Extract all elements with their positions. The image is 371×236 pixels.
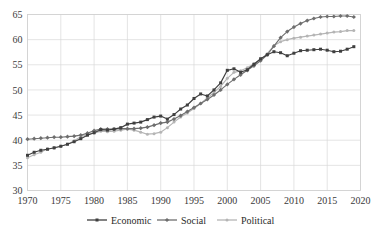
data-point-economic (193, 97, 196, 100)
legend-label-political: Political (241, 215, 275, 226)
data-point-economic (212, 88, 215, 91)
data-point-political (319, 33, 322, 36)
data-point-social (125, 127, 129, 131)
data-point-political (139, 131, 142, 134)
data-point-economic (312, 48, 315, 51)
y-axis-tick-label: 40 (13, 135, 23, 146)
data-point-social (45, 136, 49, 140)
data-point-economic (252, 63, 255, 66)
data-point-social (59, 135, 63, 139)
legend: EconomicSocialPolitical (87, 215, 275, 226)
data-point-economic (146, 118, 149, 121)
legend-marker-political (226, 219, 229, 222)
x-axis-tick-label: 1980 (84, 195, 104, 206)
data-point-economic (306, 49, 309, 52)
legend-marker-social (165, 218, 169, 222)
data-point-economic (113, 128, 116, 131)
data-point-social (318, 15, 322, 19)
series-line-social (28, 16, 354, 139)
data-point-social (298, 21, 302, 25)
data-point-political (166, 126, 169, 129)
data-point-economic (266, 53, 269, 56)
data-point-political (299, 36, 302, 39)
data-point-economic (33, 151, 36, 154)
data-point-social (165, 120, 169, 124)
y-axis: 3035404550556065 (13, 9, 23, 196)
y-axis-tick-label: 45 (13, 110, 23, 121)
data-point-political (352, 29, 355, 32)
data-point-social (152, 123, 156, 127)
data-point-economic (259, 57, 262, 60)
data-point-economic (39, 149, 42, 152)
data-point-economic (186, 104, 189, 107)
data-point-economic (99, 128, 102, 131)
data-point-political (326, 32, 329, 35)
data-point-social (325, 14, 329, 18)
data-point-economic (219, 81, 222, 84)
y-axis-tick-label: 35 (13, 160, 23, 171)
data-point-economic (326, 49, 329, 52)
data-point-political (232, 71, 235, 74)
legend-item-social[interactable]: Social (157, 215, 206, 226)
data-point-social (312, 16, 316, 20)
data-point-social (159, 121, 163, 125)
data-point-economic (239, 71, 242, 74)
data-point-political (153, 132, 156, 135)
y-axis-tick-label: 55 (13, 59, 23, 70)
data-point-economic (346, 48, 349, 51)
x-axis-tick-label: 2020 (351, 195, 371, 206)
data-point-economic (159, 115, 162, 118)
data-point-political (339, 30, 342, 33)
data-point-economic (179, 108, 182, 111)
data-point-economic (106, 129, 109, 132)
data-point-political (279, 40, 282, 43)
data-point-economic (153, 116, 156, 119)
y-axis-tick-label: 60 (13, 34, 23, 45)
data-point-social (332, 14, 336, 18)
legend-item-economic[interactable]: Economic (87, 215, 152, 226)
data-point-economic (139, 121, 142, 124)
data-point-economic (246, 68, 249, 71)
data-point-social (65, 135, 69, 139)
x-axis-tick-label: 1985 (117, 195, 137, 206)
data-point-economic (292, 52, 295, 55)
data-point-economic (73, 140, 76, 143)
data-point-economic (93, 131, 96, 134)
data-point-social (139, 126, 143, 130)
data-point-economic (79, 137, 82, 140)
x-axis-tick-label: 2000 (217, 195, 237, 206)
data-point-economic (352, 45, 355, 48)
legend-item-political[interactable]: Political (217, 215, 275, 226)
data-point-social (305, 18, 309, 22)
legend-label-social: Social (181, 215, 206, 226)
data-point-social (52, 135, 56, 139)
data-point-economic (226, 69, 229, 72)
data-point-political (346, 29, 349, 32)
data-point-economic (26, 154, 29, 157)
data-point-social (145, 125, 149, 129)
line-chart: 3035404550556065197019751980198519901995… (0, 0, 371, 236)
data-point-political (332, 31, 335, 34)
series-political (26, 29, 355, 159)
data-point-political (219, 85, 222, 88)
legend-marker-economic (96, 219, 99, 222)
x-axis-tick-label: 1995 (184, 195, 204, 206)
x-axis-tick-label: 2010 (284, 195, 304, 206)
data-point-economic (53, 146, 56, 149)
data-point-economic (59, 145, 62, 148)
data-point-economic (66, 143, 69, 146)
x-axis-tick-label: 1970 (18, 195, 38, 206)
data-point-economic (299, 49, 302, 52)
data-point-economic (339, 50, 342, 53)
x-axis-tick-label: 2005 (251, 195, 271, 206)
data-point-economic (46, 148, 49, 151)
data-point-political (146, 133, 149, 136)
data-point-political (286, 38, 289, 41)
chart-canvas: 3035404550556065197019751980198519901995… (0, 0, 371, 236)
data-point-political (159, 131, 162, 134)
x-axis-tick-label: 2015 (317, 195, 337, 206)
data-point-social (72, 134, 76, 138)
data-point-political (226, 77, 229, 80)
y-axis-tick-label: 50 (13, 85, 23, 96)
data-point-economic (332, 50, 335, 53)
